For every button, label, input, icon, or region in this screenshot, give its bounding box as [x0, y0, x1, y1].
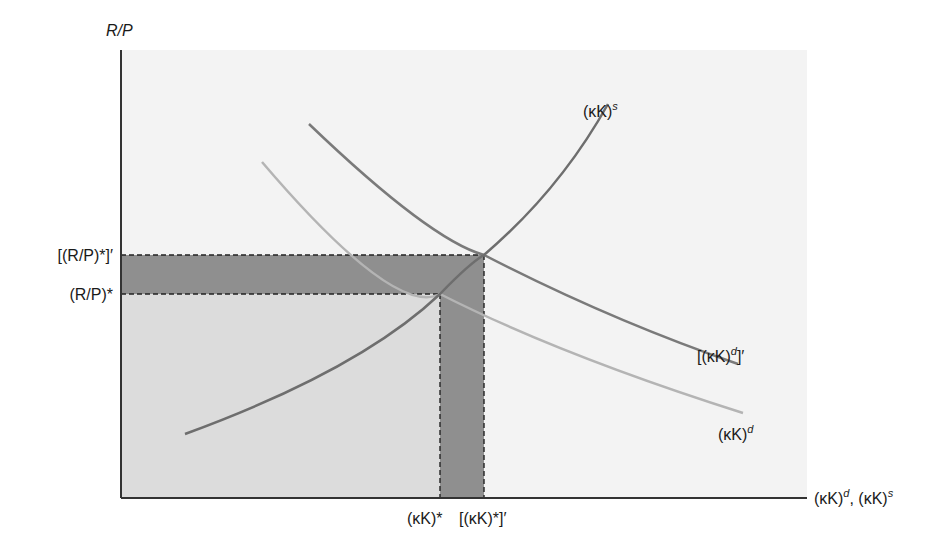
- dark-band-horizontal: [121, 255, 484, 294]
- shifted-demand-label: [(κK)d]′: [697, 345, 744, 365]
- rp-star-prime-label: [(R/P)*]′: [58, 247, 113, 264]
- dark-band-vertical: [440, 294, 484, 498]
- capital-market-diagram: R/P (κK)d, (κK)s [(R/P)*]′ (R/P)* (κK)* …: [0, 0, 949, 543]
- y-axis-label: R/P: [106, 22, 133, 39]
- kk-star-label: (κK)*: [407, 510, 443, 527]
- rp-star-label: (R/P)*: [69, 286, 113, 303]
- x-axis-label: (κK)d, (κK)s: [814, 487, 894, 507]
- kk-star-prime-label: [(κK)*]′: [459, 510, 506, 527]
